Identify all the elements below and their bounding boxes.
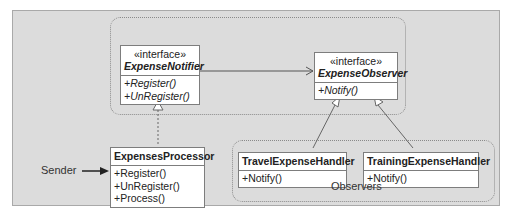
observers-group-label: Observers <box>331 180 382 192</box>
operation: +Register() <box>124 77 196 90</box>
operation: +UnRegister() <box>124 90 196 103</box>
class-expenses-processor[interactable]: ExpensesProcessor +Register() +UnRegiste… <box>110 147 205 208</box>
class-header: ExpensesProcessor <box>111 148 204 166</box>
realization-line-travel <box>313 105 335 148</box>
class-header: TrainingExpenseHandler <box>364 153 478 171</box>
class-name: ExpenseObserver <box>318 67 394 80</box>
operations-list: +Register() +UnRegister() <box>121 76 199 104</box>
sender-arrowhead-icon <box>100 167 109 175</box>
class-name: ExpensesProcessor <box>114 150 201 163</box>
operations-list: +Notify() <box>239 171 346 187</box>
class-expense-notifier[interactable]: «interface» ExpenseNotifier +Register() … <box>120 45 200 105</box>
operations-list: +Notify() <box>315 83 397 99</box>
stereotype-label: «interface» <box>318 55 394 67</box>
operation: +Register() <box>114 167 201 180</box>
class-header: «interface» ExpenseNotifier <box>121 46 199 76</box>
connectors <box>0 0 510 221</box>
operation: +Notify() <box>242 172 343 185</box>
operation: +Notify() <box>367 172 475 185</box>
realization-line-training <box>378 105 413 148</box>
operations-list: +Register() +UnRegister() +Process() <box>111 166 204 207</box>
class-header: «interface» ExpenseObserver <box>315 53 397 83</box>
operation: +UnRegister() <box>114 180 201 193</box>
class-name: ExpenseNotifier <box>124 60 196 73</box>
operation: +Process() <box>114 192 201 205</box>
class-header: TravelExpenseHandler <box>239 153 346 171</box>
sender-label: Sender <box>41 164 76 176</box>
stereotype-label: «interface» <box>124 48 196 60</box>
class-name: TrainingExpenseHandler <box>367 155 475 168</box>
class-name: TravelExpenseHandler <box>242 155 343 168</box>
operation: +Notify() <box>318 84 394 97</box>
class-expense-observer[interactable]: «interface» ExpenseObserver +Notify() <box>314 52 398 100</box>
